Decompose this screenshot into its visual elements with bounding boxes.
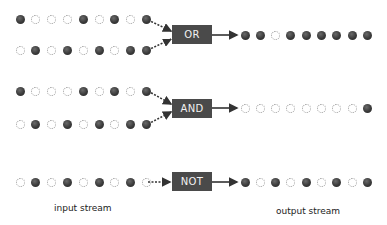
bit-on-dot (95, 46, 104, 55)
bit-on-dot (63, 46, 72, 55)
and-gate: AND (172, 99, 212, 118)
bit-off-dot (348, 104, 357, 113)
bit-off-dot (79, 178, 88, 187)
bit-on-dot (142, 120, 151, 129)
bit-off-dot (95, 87, 104, 96)
bit-off-dot (31, 15, 40, 24)
bit-on-dot (332, 31, 341, 40)
bit-off-dot (47, 46, 56, 55)
bit-off-dot (63, 87, 72, 96)
bit-on-dot (363, 31, 372, 40)
bit-off-dot (271, 104, 280, 113)
bit-on-dot (256, 31, 265, 40)
bit-off-dot (332, 104, 341, 113)
not-gate: NOT (172, 172, 212, 191)
bit-on-dot (302, 178, 311, 187)
bit-on-dot (16, 87, 25, 96)
bit-on-dot (110, 87, 119, 96)
output-stream-caption: output stream (276, 206, 340, 216)
bit-off-dot (286, 104, 295, 113)
bit-off-dot (110, 178, 119, 187)
bit-off-dot (110, 46, 119, 55)
bit-off-dot (286, 178, 295, 187)
bit-off-dot (63, 15, 72, 24)
bit-off-dot (16, 120, 25, 129)
bit-off-dot (142, 178, 151, 187)
bit-off-dot (79, 120, 88, 129)
bit-on-dot (332, 178, 341, 187)
bit-on-dot (317, 31, 326, 40)
bit-on-dot (142, 46, 151, 55)
bit-on-dot (286, 31, 295, 40)
bit-on-dot (95, 120, 104, 129)
bit-off-dot (79, 46, 88, 55)
bit-on-dot (348, 31, 357, 40)
bit-on-dot (110, 15, 119, 24)
bit-off-dot (256, 178, 265, 187)
bit-on-dot (126, 46, 135, 55)
bit-on-dot (363, 104, 372, 113)
bit-off-dot (241, 104, 250, 113)
bit-off-dot (348, 178, 357, 187)
bit-on-dot (126, 120, 135, 129)
bit-on-dot (241, 178, 250, 187)
bit-off-dot (95, 15, 104, 24)
bit-on-dot (31, 178, 40, 187)
bit-on-dot (95, 178, 104, 187)
bit-on-dot (79, 15, 88, 24)
bit-off-dot (317, 104, 326, 113)
bit-on-dot (142, 87, 151, 96)
bit-on-dot (63, 178, 72, 187)
bit-on-dot (302, 31, 311, 40)
bit-on-dot (16, 15, 25, 24)
bit-off-dot (256, 104, 265, 113)
bit-off-dot (47, 87, 56, 96)
bit-on-dot (271, 178, 280, 187)
bit-off-dot (126, 15, 135, 24)
bit-off-dot (47, 178, 56, 187)
bit-on-dot (126, 178, 135, 187)
input-stream-caption: input stream (54, 203, 112, 213)
bit-on-dot (142, 15, 151, 24)
bit-on-dot (363, 178, 372, 187)
bit-off-dot (317, 178, 326, 187)
bit-off-dot (31, 87, 40, 96)
bit-off-dot (47, 120, 56, 129)
bit-off-dot (302, 104, 311, 113)
or-gate: OR (172, 25, 212, 44)
bit-on-dot (31, 120, 40, 129)
bit-on-dot (79, 87, 88, 96)
bit-on-dot (241, 31, 250, 40)
bit-off-dot (110, 120, 119, 129)
bit-off-dot (16, 46, 25, 55)
bit-off-dot (126, 87, 135, 96)
bit-off-dot (47, 15, 56, 24)
bit-on-dot (63, 120, 72, 129)
bit-off-dot (16, 178, 25, 187)
bit-off-dot (271, 31, 280, 40)
bit-on-dot (31, 46, 40, 55)
